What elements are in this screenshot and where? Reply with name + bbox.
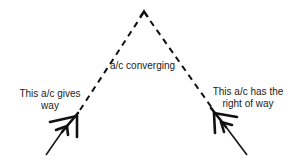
gives-way-line2: way	[15, 100, 85, 112]
convergence-diagram	[0, 0, 300, 165]
right-tail-line	[226, 127, 247, 155]
gives-way-label: This a/c gives way	[15, 88, 85, 112]
apex-chevron-icon	[140, 11, 148, 17]
converging-label: a/c converging	[110, 60, 175, 72]
right-of-way-label: This a/c has the right of way	[208, 86, 288, 110]
right-of-way-line2: right of way	[208, 98, 288, 110]
left-aircraft-icon	[50, 113, 78, 137]
right-of-way-line1: This a/c has the	[208, 86, 288, 98]
right-aircraft-icon	[211, 108, 237, 133]
gives-way-line1: This a/c gives	[15, 88, 85, 100]
